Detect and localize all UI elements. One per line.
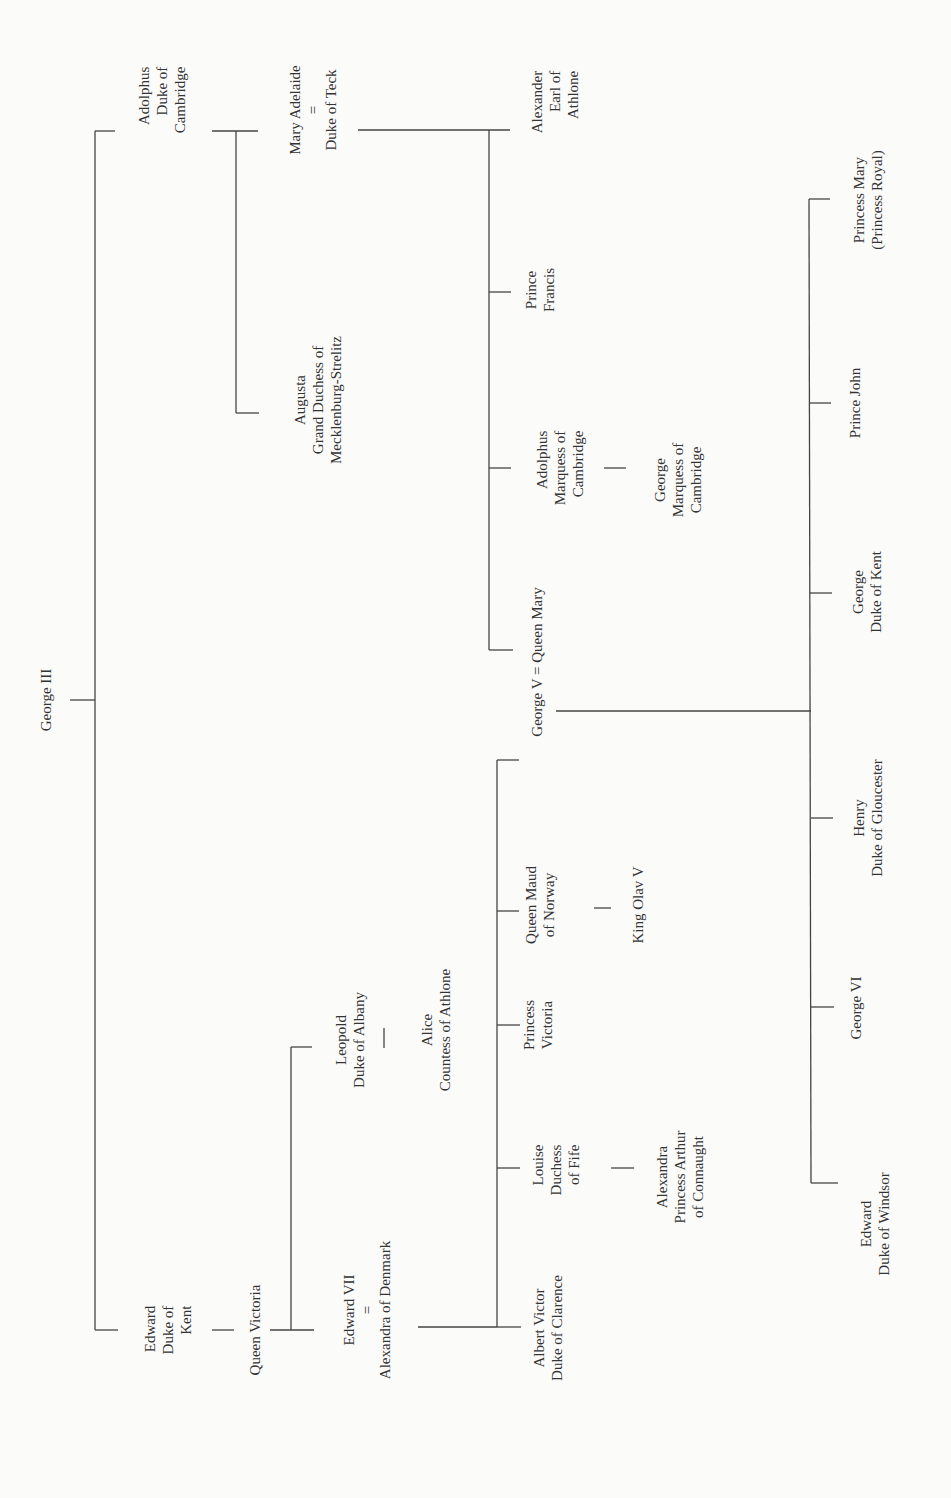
person-node-alice-countess-of-athlone: AliceCountess of Athlone bbox=[418, 969, 454, 1092]
person-name-line: Augusta bbox=[291, 336, 309, 464]
tree-connector-lines bbox=[0, 0, 951, 1498]
person-name-line: Countess of Athlone bbox=[436, 969, 454, 1092]
person-name-line: Mary Adelaide bbox=[286, 65, 304, 155]
person-name-line: Duke of Kent bbox=[867, 551, 885, 633]
person-name-line: = bbox=[304, 65, 322, 155]
person-node-louise-duchess-of-fife: LouiseDuchessof Fife bbox=[529, 1145, 583, 1196]
person-name-line: Cambridge bbox=[569, 431, 587, 506]
person-node-princess-victoria: PrincessVictoria bbox=[520, 1000, 556, 1050]
person-name-line: George III bbox=[37, 669, 55, 732]
person-node-alexander-earl-of-athlone: AlexanderEarl ofAthlone bbox=[528, 71, 582, 133]
person-name-line: Albert Victor bbox=[530, 1275, 548, 1381]
person-node-king-olav-v: King Olav V bbox=[629, 866, 647, 943]
person-name-line: George VI bbox=[847, 976, 865, 1039]
person-name-line: Marquess of bbox=[669, 443, 687, 518]
person-name-line: Henry bbox=[850, 759, 868, 876]
person-name-line: Duchess bbox=[547, 1145, 565, 1196]
person-name-line: Leopold bbox=[332, 992, 350, 1088]
person-name-line: Alexander bbox=[528, 71, 546, 133]
person-node-george-vi: George VI bbox=[847, 976, 865, 1039]
person-name-line: Alice bbox=[418, 969, 436, 1092]
person-name-line: of Fife bbox=[565, 1145, 583, 1196]
person-name-line: Queen Victoria bbox=[246, 1285, 264, 1376]
person-name-line: Cambridge bbox=[171, 67, 189, 134]
person-node-prince-francis: PrinceFrancis bbox=[522, 268, 558, 312]
person-node-george-iii: George III bbox=[37, 669, 55, 732]
person-name-line: Kent bbox=[177, 1306, 195, 1355]
connector-line bbox=[809, 199, 811, 1183]
person-name-line: Edward bbox=[141, 1306, 159, 1355]
person-node-queen-maud-of-norway: Queen Maudof Norway bbox=[522, 866, 558, 944]
person-name-line: Duke of Teck bbox=[322, 65, 340, 155]
person-node-albert-victor-duke-of-clarence: Albert VictorDuke of Clarence bbox=[530, 1275, 566, 1381]
person-name-line: Mecklenburg-Strelitz bbox=[327, 336, 345, 464]
person-node-adolphus-duke-of-cambridge: AdolphusDuke ofCambridge bbox=[135, 67, 189, 134]
person-name-line: George bbox=[849, 551, 867, 633]
person-name-line: Francis bbox=[540, 268, 558, 312]
person-name-line: Duke of bbox=[153, 67, 171, 134]
person-name-line: Prince John bbox=[846, 368, 864, 438]
person-name-line: Duke of Clarence bbox=[548, 1275, 566, 1381]
person-name-line: Grand Duchess of bbox=[309, 336, 327, 464]
person-node-mary-adelaide-duke-of-teck: Mary Adelaide=Duke of Teck bbox=[286, 65, 340, 155]
person-name-line: Edward VII bbox=[340, 1241, 358, 1379]
person-name-line: Cambridge bbox=[687, 443, 705, 518]
person-name-line: Prince bbox=[522, 268, 540, 312]
person-node-alexandra-princess-arthur: AlexandraPrincess Arthurof Connaught bbox=[653, 1131, 707, 1224]
person-node-leopold-duke-of-albany: LeopoldDuke of Albany bbox=[332, 992, 368, 1088]
person-node-augusta-grand-duchess: AugustaGrand Duchess ofMecklenburg-Strel… bbox=[291, 336, 345, 464]
person-node-george-marquess-of-cambridge: GeorgeMarquess ofCambridge bbox=[651, 443, 705, 518]
person-node-george-duke-of-kent: GeorgeDuke of Kent bbox=[849, 551, 885, 633]
person-node-prince-john: Prince John bbox=[846, 368, 864, 438]
person-name-line: King Olav V bbox=[629, 866, 647, 943]
person-name-line: Princess Arthur bbox=[671, 1131, 689, 1224]
person-node-adolphus-marquess-of-cambridge: AdolphusMarquess ofCambridge bbox=[533, 431, 587, 506]
person-node-edward-duke-of-kent: EdwardDuke ofKent bbox=[141, 1306, 195, 1355]
person-name-line: Victoria bbox=[538, 1000, 556, 1050]
person-name-line: Marquess of bbox=[551, 431, 569, 506]
person-name-line: Earl of bbox=[546, 71, 564, 133]
person-name-line: Louise bbox=[529, 1145, 547, 1196]
person-name-line: Duke of bbox=[159, 1306, 177, 1355]
person-node-queen-victoria: Queen Victoria bbox=[246, 1285, 264, 1376]
person-name-line: George V = Queen Mary bbox=[528, 587, 546, 736]
person-name-line: Duke of Windsor bbox=[875, 1172, 893, 1275]
person-name-line: Alexandra of Denmark bbox=[376, 1241, 394, 1379]
person-name-line: Alexandra bbox=[653, 1131, 671, 1224]
person-node-henry-duke-of-gloucester: HenryDuke of Gloucester bbox=[850, 759, 886, 876]
person-name-line: = bbox=[358, 1241, 376, 1379]
person-name-line: Duke of Albany bbox=[350, 992, 368, 1088]
person-node-princess-mary-princess-royal: Princess Mary(Princess Royal) bbox=[850, 150, 886, 250]
person-name-line: Athlone bbox=[564, 71, 582, 133]
person-node-edward-vii-alexandra: Edward VII=Alexandra of Denmark bbox=[340, 1241, 394, 1379]
person-name-line: Duke of Gloucester bbox=[868, 759, 886, 876]
person-name-line: Queen Maud bbox=[522, 866, 540, 944]
person-name-line: Edward bbox=[857, 1172, 875, 1275]
person-name-line: of Norway bbox=[540, 866, 558, 944]
person-name-line: George bbox=[651, 443, 669, 518]
person-name-line: Adolphus bbox=[135, 67, 153, 134]
person-name-line: Adolphus bbox=[533, 431, 551, 506]
person-node-edward-duke-of-windsor: EdwardDuke of Windsor bbox=[857, 1172, 893, 1275]
person-node-george-v-queen-mary: George V = Queen Mary bbox=[528, 587, 546, 736]
person-name-line: (Princess Royal) bbox=[868, 150, 886, 250]
person-name-line: of Connaught bbox=[689, 1131, 707, 1224]
person-name-line: Princess bbox=[520, 1000, 538, 1050]
person-name-line: Princess Mary bbox=[850, 150, 868, 250]
